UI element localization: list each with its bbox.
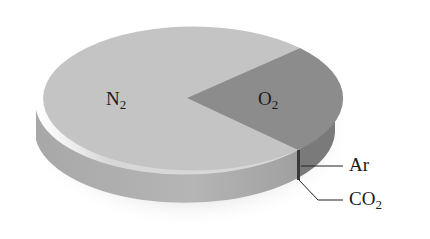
o2-label: O2 [258,88,278,113]
ar-label: Ar [349,154,369,176]
pie-chart: N2 O2 Ar CO2 [0,0,430,239]
n2-label: N2 [106,88,126,113]
co2-label: CO2 [349,188,382,213]
ar-co2-slice-edge [297,150,300,180]
